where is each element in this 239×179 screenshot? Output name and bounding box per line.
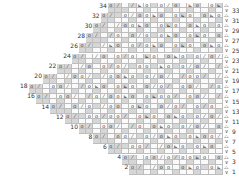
row-label-right: 5 bbox=[232, 149, 236, 155]
chart-cell bbox=[216, 170, 223, 175]
row-label-right: 27 bbox=[232, 38, 239, 44]
chart-cell bbox=[187, 170, 194, 175]
chart-cell bbox=[194, 170, 201, 175]
row-label-left: 24 bbox=[59, 53, 71, 59]
slip-icon: ∨ bbox=[224, 170, 230, 175]
row-label-left: 34 bbox=[95, 3, 107, 9]
row-label-left: 6 bbox=[95, 144, 107, 150]
chart-cell bbox=[180, 170, 187, 175]
chart-cell bbox=[173, 170, 180, 175]
row-label-right: 21 bbox=[232, 68, 239, 74]
chart-cell bbox=[144, 170, 151, 175]
row-label-left: 4 bbox=[109, 154, 121, 160]
row-label-right: 25 bbox=[232, 48, 239, 54]
row-label-left: 20 bbox=[30, 73, 42, 79]
row-label-right: 7 bbox=[232, 139, 236, 145]
row-label-left: 14 bbox=[37, 104, 49, 110]
row-label-left: 16 bbox=[23, 93, 35, 99]
row-label-right: 15 bbox=[232, 99, 239, 105]
row-label-left: 18 bbox=[16, 83, 28, 89]
row-label-left: 22 bbox=[44, 63, 56, 69]
row-label-left: 10 bbox=[66, 124, 78, 130]
chart-cell bbox=[165, 170, 172, 175]
chart-cell bbox=[151, 170, 158, 175]
row-label-right: 1 bbox=[232, 169, 236, 175]
row-label-right: 19 bbox=[232, 78, 239, 84]
row-label-left: 12 bbox=[52, 114, 64, 120]
row-label-right: 31 bbox=[232, 18, 239, 24]
row-label-left: 26 bbox=[66, 43, 78, 49]
row-label-right: 29 bbox=[232, 28, 239, 34]
row-label-right: 9 bbox=[232, 129, 236, 135]
row-label-right: 33 bbox=[232, 8, 239, 14]
row-label-right: 23 bbox=[232, 58, 239, 64]
row-label-right: 11 bbox=[232, 119, 239, 125]
row-label-right: 3 bbox=[232, 159, 236, 165]
row-label-right: 13 bbox=[232, 109, 239, 115]
knitting-chart: o⁄⁄⊾oo⁄o⊾oo⊾34⧍∨33o⁄o⁄oo⊾oo⊾oo⊾o32⧍∨31o⁄… bbox=[0, 0, 239, 179]
chart-cell bbox=[137, 170, 144, 175]
row-label-left: 30 bbox=[80, 23, 92, 29]
chart-cell bbox=[201, 170, 208, 175]
row-label-right: 17 bbox=[232, 88, 239, 94]
row-label-left: 32 bbox=[88, 13, 100, 19]
chart-cell bbox=[158, 170, 165, 175]
row-label-left: 28 bbox=[73, 33, 85, 39]
chart-cell bbox=[209, 170, 216, 175]
row-label-left: 8 bbox=[80, 134, 92, 140]
chart-cell bbox=[129, 170, 136, 175]
row-label-left: 2 bbox=[116, 164, 128, 170]
